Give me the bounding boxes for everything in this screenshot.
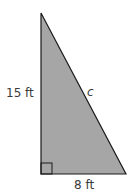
vertical-leg-label: 15 ft [6, 86, 34, 100]
horizontal-leg-label: 8 ft [74, 178, 94, 192]
hypotenuse-label: c [87, 85, 94, 99]
right-triangle [41, 13, 126, 174]
triangle-diagram: 15 ft c 8 ft [0, 0, 131, 196]
